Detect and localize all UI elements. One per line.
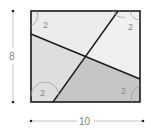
angle-label-top-left: 2 [43, 20, 48, 30]
height-dimension-dot-top [12, 10, 15, 13]
height-dimension-dot-bottom [12, 101, 15, 104]
angle-label-bottom-left: 2 [40, 88, 45, 98]
angle-label-bottom-right: 2 [121, 86, 126, 96]
width-label: 10 [79, 116, 91, 127]
width-dimension-dot-right [142, 120, 145, 123]
width-dimension-dot-left [30, 120, 33, 123]
angle-label-top-right: 2 [128, 22, 133, 32]
height-label: 8 [9, 51, 15, 62]
geometry-diagram: 2 2 2 2 8 10 [0, 0, 154, 130]
